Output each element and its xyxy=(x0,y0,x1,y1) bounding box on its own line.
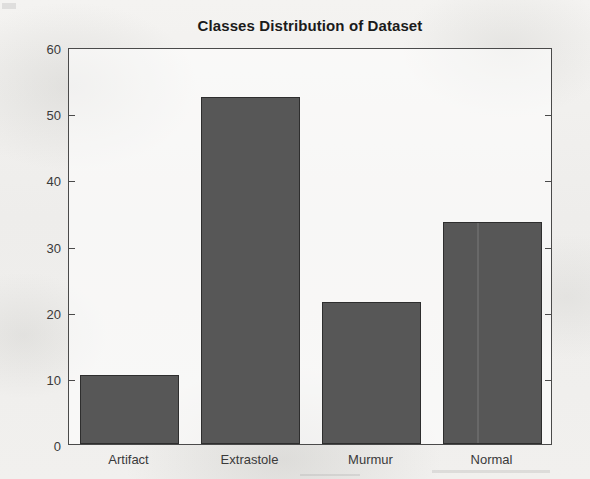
y-axis-tick xyxy=(69,380,75,381)
y-axis-tick-label: 40 xyxy=(21,174,61,189)
scan-artifact-mark xyxy=(477,223,479,443)
y-axis-tick xyxy=(69,115,75,116)
y-axis-tick-label: 50 xyxy=(21,108,61,123)
bar-chart-figure: Classes Distribution of Dataset 01020304… xyxy=(0,0,590,479)
x-axis-tick-label: Artifact xyxy=(108,452,148,467)
y-axis-tick xyxy=(69,248,75,249)
bar-extrastole xyxy=(201,97,300,444)
scan-artifact-mark xyxy=(432,470,550,473)
x-axis-tick-label: Murmur xyxy=(348,452,393,467)
plot-area: 0102030405060 xyxy=(68,48,552,445)
y-axis-tick xyxy=(545,248,551,249)
bar-murmur xyxy=(322,302,421,444)
y-axis-tick xyxy=(545,380,551,381)
scan-artifact-mark xyxy=(300,474,360,476)
y-axis-tick xyxy=(545,314,551,315)
bar-artifact xyxy=(80,375,179,444)
x-axis-tick-label: Normal xyxy=(471,452,513,467)
plot-inner: 0102030405060 xyxy=(69,49,551,444)
y-axis-tick-label: 0 xyxy=(21,439,61,454)
y-axis-tick-label: 60 xyxy=(21,42,61,57)
y-axis-tick-label: 10 xyxy=(21,372,61,387)
scan-artifact-mark xyxy=(2,3,16,9)
y-axis-tick-label: 30 xyxy=(21,240,61,255)
y-axis-tick xyxy=(545,181,551,182)
y-axis-tick xyxy=(69,181,75,182)
bar-normal xyxy=(443,222,542,444)
y-axis-tick xyxy=(69,314,75,315)
y-axis-tick-label: 20 xyxy=(21,306,61,321)
x-axis-tick-label: Extrastole xyxy=(221,452,279,467)
chart-title: Classes Distribution of Dataset xyxy=(68,17,552,34)
y-axis-tick xyxy=(545,115,551,116)
